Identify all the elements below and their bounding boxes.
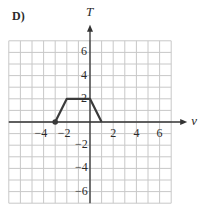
x-tick-label: −4 xyxy=(35,127,48,139)
y-tick-label: 2 xyxy=(81,92,87,104)
y-tick-label: 4 xyxy=(81,69,87,81)
x-tick-label: 4 xyxy=(133,127,139,139)
x-tick-label: 6 xyxy=(157,127,163,139)
y-tick-label: −2 xyxy=(75,138,88,150)
y-tick-label: −4 xyxy=(75,161,88,173)
y-axis-label: T xyxy=(86,5,93,18)
x-axis-arrow-icon xyxy=(180,119,187,125)
graph-area xyxy=(0,0,209,224)
x-tick-label: −2 xyxy=(58,127,71,139)
y-axis-arrow-icon xyxy=(87,25,93,32)
y-tick-label: 6 xyxy=(81,45,87,57)
x-tick-label: 2 xyxy=(110,127,116,139)
x-axis-label: v xyxy=(191,114,197,127)
closed-dot-marker xyxy=(52,119,58,125)
y-tick-label: −6 xyxy=(75,185,88,197)
